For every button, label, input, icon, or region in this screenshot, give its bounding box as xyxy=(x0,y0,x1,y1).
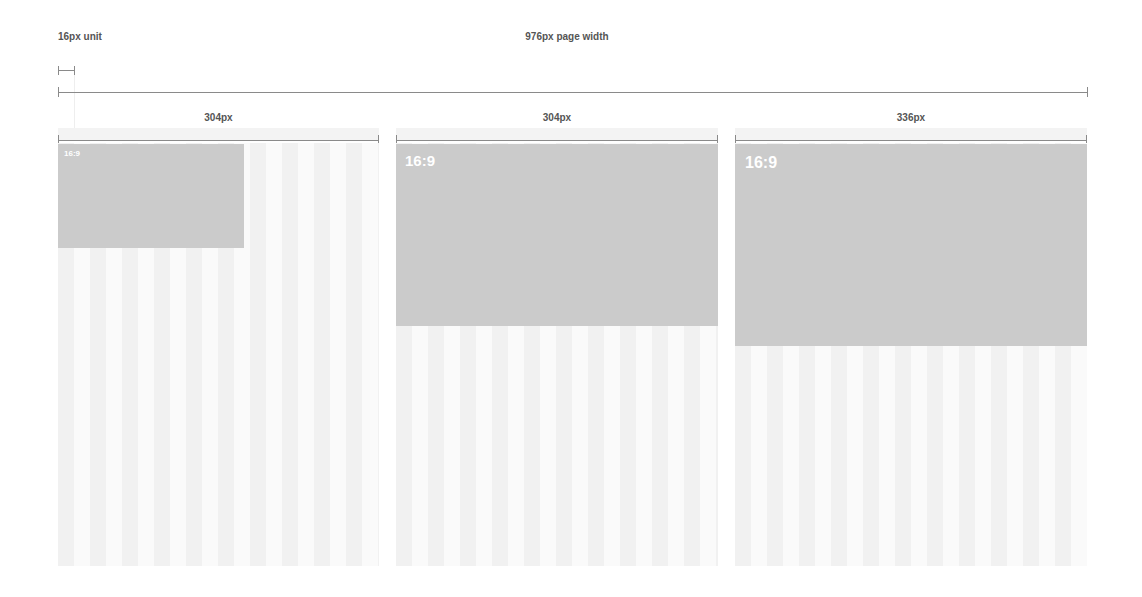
column-3-ratio-label: 16:9 xyxy=(745,154,777,172)
column-2-measure-line xyxy=(396,140,718,141)
column-1-header-band xyxy=(58,128,379,140)
column-2-ratio-label: 16:9 xyxy=(405,152,435,169)
column-2-media-box: 16:9 xyxy=(396,144,718,326)
column-2-width-label: 304px xyxy=(396,112,718,123)
column-2-header-band xyxy=(396,128,718,140)
column-3-header-band xyxy=(735,128,1087,140)
column-1-ratio-label: 16:9 xyxy=(64,149,80,158)
column-1-width-label: 304px xyxy=(58,112,379,123)
unit-label: 16px unit xyxy=(58,31,102,42)
column-3-media-box: 16:9 xyxy=(735,144,1087,346)
column-3-width-label: 336px xyxy=(735,112,1087,123)
column-1-measure-line xyxy=(58,140,379,141)
column-1-grid: 16:9 xyxy=(58,143,379,566)
column-2-grid: 16:9 xyxy=(396,143,718,566)
column-1-media-box: 16:9 xyxy=(58,144,244,248)
column-3-grid: 16:9 xyxy=(735,143,1087,566)
column-3-measure-line xyxy=(735,140,1087,141)
page-width-label: 976px page width xyxy=(510,31,624,42)
